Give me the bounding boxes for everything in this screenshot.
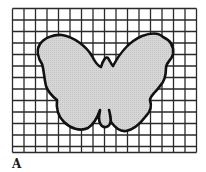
panel-label: A xyxy=(12,157,21,171)
grid-figure xyxy=(0,0,206,172)
